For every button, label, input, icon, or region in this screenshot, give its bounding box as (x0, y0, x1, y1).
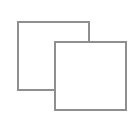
front-square (54, 41, 127, 111)
